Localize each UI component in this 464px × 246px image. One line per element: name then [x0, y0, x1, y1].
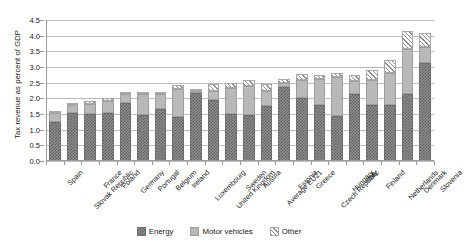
bar-group[interactable]	[102, 20, 114, 161]
bar-segment-other[interactable]	[84, 101, 96, 104]
y-tick-mark	[40, 36, 44, 37]
bar-segment-other[interactable]	[49, 111, 61, 113]
bar-segment-energy[interactable]	[102, 113, 114, 161]
bar-segment-energy[interactable]	[67, 113, 79, 161]
bar-segment-motor-vehicles[interactable]	[296, 80, 308, 98]
bar-segment-energy[interactable]	[419, 63, 431, 161]
bar-segment-other[interactable]	[384, 60, 396, 73]
bar-group[interactable]	[349, 20, 361, 161]
y-tick-label: 4.0	[0, 31, 40, 40]
bar-group[interactable]	[243, 20, 255, 161]
x-tick-mark	[399, 161, 400, 165]
legend-item[interactable]: Energy	[137, 227, 174, 236]
bar-segment-other[interactable]	[190, 89, 202, 91]
bar-segment-other[interactable]	[402, 31, 414, 49]
bar-group[interactable]	[49, 20, 61, 161]
bar-segment-other[interactable]	[67, 103, 79, 105]
bar-group[interactable]	[137, 20, 149, 161]
bar-group[interactable]	[84, 20, 96, 161]
bar-segment-other[interactable]	[278, 79, 290, 83]
bar-segment-motor-vehicles[interactable]	[49, 113, 61, 122]
bar-segment-motor-vehicles[interactable]	[278, 83, 290, 87]
bar-segment-motor-vehicles[interactable]	[243, 86, 255, 114]
bar-segment-energy[interactable]	[225, 114, 237, 161]
bar-segment-energy[interactable]	[314, 105, 326, 161]
bar-segment-other[interactable]	[172, 85, 184, 89]
bar-group[interactable]	[172, 20, 184, 161]
bar-segment-other[interactable]	[261, 84, 273, 92]
bar-segment-energy[interactable]	[49, 122, 61, 161]
bar-segment-motor-vehicles[interactable]	[314, 79, 326, 105]
bar-group[interactable]	[67, 20, 79, 161]
bar-segment-motor-vehicles[interactable]	[67, 105, 79, 113]
bar-segment-motor-vehicles[interactable]	[120, 94, 132, 103]
bar-segment-motor-vehicles[interactable]	[172, 89, 184, 117]
bar-group[interactable]	[120, 20, 132, 161]
bar-segment-motor-vehicles[interactable]	[331, 77, 343, 116]
x-tick-mark	[258, 161, 259, 165]
bar-segment-energy[interactable]	[349, 94, 361, 161]
bar-segment-energy[interactable]	[84, 114, 96, 161]
bar-group[interactable]	[384, 20, 396, 161]
bar-group[interactable]	[296, 20, 308, 161]
bar-segment-other[interactable]	[331, 73, 343, 77]
bar-segment-energy[interactable]	[366, 105, 378, 161]
bar-segment-other[interactable]	[296, 74, 308, 80]
bar-segment-energy[interactable]	[331, 116, 343, 161]
bar-segment-other[interactable]	[419, 33, 431, 47]
bar-segment-other[interactable]	[137, 92, 149, 94]
bar-segment-other[interactable]	[243, 80, 255, 87]
bar-segment-motor-vehicles[interactable]	[261, 91, 273, 106]
bar-group[interactable]	[314, 20, 326, 161]
bar-segment-other[interactable]	[155, 92, 167, 94]
bar-segment-other[interactable]	[314, 75, 326, 79]
bar-group[interactable]	[366, 20, 378, 161]
bar-segment-motor-vehicles[interactable]	[155, 94, 167, 109]
bar-group[interactable]	[208, 20, 220, 161]
bar-segment-motor-vehicles[interactable]	[102, 101, 114, 113]
bar-segment-motor-vehicles[interactable]	[208, 91, 220, 99]
bar-segment-energy[interactable]	[190, 93, 202, 161]
bar-segment-energy[interactable]	[384, 105, 396, 161]
x-tick-mark	[240, 161, 241, 165]
bar-segment-energy[interactable]	[402, 94, 414, 161]
y-tick-mark	[40, 83, 44, 84]
bar-segment-energy[interactable]	[296, 98, 308, 161]
y-tick-label: 4.5	[0, 16, 40, 25]
bar-group[interactable]	[331, 20, 343, 161]
bar-segment-energy[interactable]	[208, 100, 220, 161]
bar-segment-other[interactable]	[349, 75, 361, 82]
bar-segment-energy[interactable]	[137, 115, 149, 161]
bar-segment-motor-vehicles[interactable]	[366, 80, 378, 106]
bar-segment-energy[interactable]	[172, 117, 184, 161]
legend-item[interactable]: Other	[270, 227, 302, 236]
bar-segment-energy[interactable]	[120, 103, 132, 161]
bar-segment-motor-vehicles[interactable]	[402, 49, 414, 94]
bar-segment-other[interactable]	[225, 83, 237, 89]
bar-segment-motor-vehicles[interactable]	[349, 81, 361, 94]
legend-item[interactable]: Motor vehicles	[190, 227, 252, 236]
bar-group[interactable]	[419, 20, 431, 161]
y-tick-mark	[40, 130, 44, 131]
legend-label: Energy	[149, 227, 174, 236]
bar-segment-other[interactable]	[120, 92, 132, 94]
bar-segment-motor-vehicles[interactable]	[225, 88, 237, 114]
bar-segment-energy[interactable]	[243, 115, 255, 161]
bar-segment-energy[interactable]	[278, 87, 290, 161]
bar-segment-motor-vehicles[interactable]	[384, 73, 396, 106]
bar-segment-motor-vehicles[interactable]	[419, 47, 431, 63]
bar-group[interactable]	[278, 20, 290, 161]
bar-group[interactable]	[402, 20, 414, 161]
bar-segment-energy[interactable]	[261, 106, 273, 161]
bar-segment-motor-vehicles[interactable]	[137, 94, 149, 115]
bar-segment-motor-vehicles[interactable]	[84, 104, 96, 114]
bar-segment-other[interactable]	[366, 70, 378, 79]
legend-label: Other	[282, 227, 302, 236]
bar-group[interactable]	[261, 20, 273, 161]
bar-group[interactable]	[225, 20, 237, 161]
bar-segment-energy[interactable]	[155, 109, 167, 161]
bar-segment-other[interactable]	[208, 84, 220, 92]
bar-segment-other[interactable]	[102, 98, 114, 101]
bar-group[interactable]	[155, 20, 167, 161]
bar-group[interactable]	[190, 20, 202, 161]
